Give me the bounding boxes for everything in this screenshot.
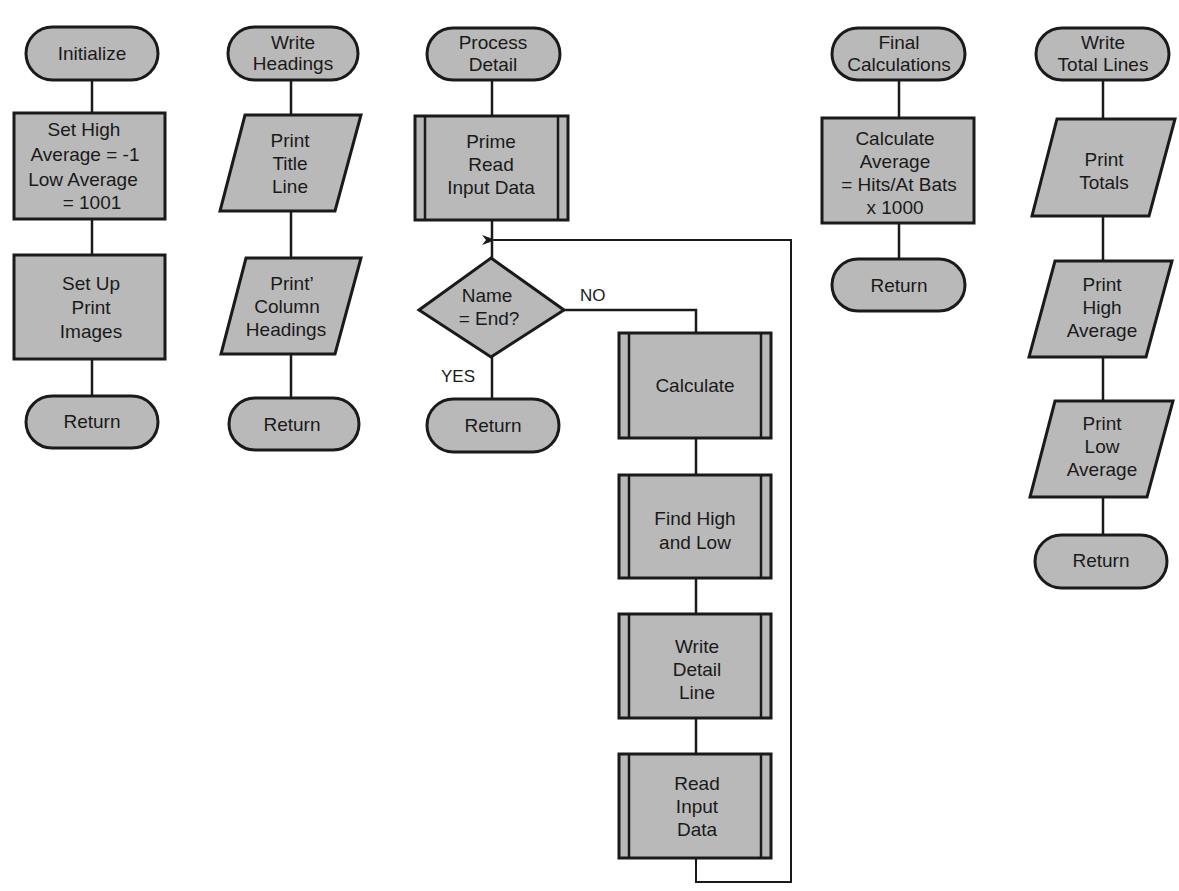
branch-label-no: NO [580, 286, 606, 305]
predefined-find-high-and-low[interactable]: Find High and Low [619, 475, 771, 578]
node-label: Write [271, 32, 315, 53]
flowchart-canvas: Initialize Set High Average = -1 Low Ave… [0, 0, 1179, 891]
node-label: Total Lines [1058, 54, 1149, 75]
node-label: = End? [459, 308, 520, 329]
node-label: Average [1067, 320, 1137, 341]
node-label: Detail [469, 54, 518, 75]
node-label: Final [878, 32, 919, 53]
terminal-return[interactable]: Return [229, 398, 359, 450]
node-label: High [1082, 297, 1121, 318]
decision-name-equals-end[interactable]: Name = End? [419, 258, 564, 357]
branch-label-yes: YES [441, 367, 475, 386]
module-process-detail: Process Detail Prime Read Input Data Nam… [415, 28, 791, 882]
node-label: Read [674, 773, 719, 794]
node-label: Column [254, 296, 319, 317]
node-label: Data [677, 819, 718, 840]
connector-no [564, 310, 696, 333]
node-label: Totals [1079, 172, 1129, 193]
node-label: Line [679, 682, 715, 703]
node-label: = Hits/At Bats [841, 174, 957, 195]
node-label: Name [462, 285, 513, 306]
terminal-initialize[interactable]: Initialize [26, 27, 158, 80]
node-label: Input [676, 796, 719, 817]
node-label: Print [1082, 413, 1122, 434]
terminal-return[interactable]: Return [26, 396, 158, 448]
terminal-write-headings[interactable]: Write Headings [228, 27, 358, 80]
node-label: Set High [48, 119, 121, 140]
node-label: Calculate [655, 375, 734, 396]
predefined-read-input-data[interactable]: Read Input Data [619, 754, 771, 858]
terminal-return[interactable]: Return [427, 399, 559, 452]
module-write-headings: Write Headings Print Title Line Print’ C… [220, 27, 361, 450]
node-label: Average [1067, 459, 1137, 480]
node-label: Title [272, 153, 307, 174]
node-label: Headings [246, 319, 326, 340]
node-label: Line [272, 176, 308, 197]
terminal-return[interactable]: Return [1035, 535, 1167, 588]
node-label: Return [464, 415, 521, 436]
node-label: Read [468, 154, 513, 175]
process-calculate-average[interactable]: Calculate Average = Hits/At Bats x 1000 [822, 118, 974, 223]
terminal-return[interactable]: Return [832, 259, 965, 311]
node-label: Input Data [447, 177, 535, 198]
node-label: Print [1084, 149, 1124, 170]
node-label: Return [1072, 550, 1129, 571]
node-label: x 1000 [866, 197, 923, 218]
io-print-title-line[interactable]: Print Title Line [220, 115, 361, 211]
node-label: Return [263, 414, 320, 435]
node-label: Print [71, 297, 111, 318]
node-label: Return [63, 411, 120, 432]
process-set-high-low-average[interactable]: Set High Average = -1 Low Average = 1001 [14, 113, 165, 219]
node-label: Find High [654, 508, 735, 529]
node-label: Write [675, 636, 719, 657]
process-set-up-print-images[interactable]: Set Up Print Images [14, 255, 165, 359]
io-print-totals[interactable]: Print Totals [1032, 119, 1175, 216]
node-label: Print [270, 130, 310, 151]
io-print-column-headings[interactable]: Print’ Column Headings [221, 258, 361, 354]
node-label: Set Up [62, 273, 120, 294]
node-label: Return [870, 275, 927, 296]
node-label: Calculations [847, 54, 951, 75]
predefined-prime-read-input-data[interactable]: Prime Read Input Data [415, 116, 568, 220]
node-label: Average = -1 [31, 144, 140, 165]
node-label: Process [459, 32, 528, 53]
module-final-calculations: Final Calculations Calculate Average = H… [822, 28, 974, 311]
node-label: Print’ [270, 273, 313, 294]
node-label: Headings [253, 53, 333, 74]
io-print-high-average[interactable]: Print High Average [1029, 261, 1172, 357]
terminal-write-total-lines[interactable]: Write Total Lines [1036, 28, 1169, 80]
io-print-low-average[interactable]: Print Low Average [1030, 401, 1173, 497]
terminal-process-detail[interactable]: Process Detail [427, 28, 560, 80]
node-label: Calculate [855, 128, 934, 149]
node-label: Average [860, 151, 930, 172]
node-label: Detail [673, 659, 722, 680]
node-label: Low [1085, 436, 1120, 457]
module-initialize: Initialize Set High Average = -1 Low Ave… [14, 27, 165, 448]
node-label: = 1001 [63, 192, 122, 213]
predefined-calculate[interactable]: Calculate [619, 333, 771, 438]
node-label: Print [1082, 274, 1122, 295]
module-write-total-lines: Write Total Lines Print Totals Print Hig… [1029, 28, 1175, 588]
predefined-write-detail-line[interactable]: Write Detail Line [619, 614, 771, 718]
terminal-final-calculations[interactable]: Final Calculations [832, 28, 965, 80]
node-label: Write [1081, 32, 1125, 53]
node-label: Images [60, 321, 122, 342]
node-label: Low Average [28, 169, 138, 190]
node-label: and Low [659, 532, 731, 553]
node-label: Prime [466, 131, 516, 152]
node-label: Initialize [58, 43, 127, 64]
